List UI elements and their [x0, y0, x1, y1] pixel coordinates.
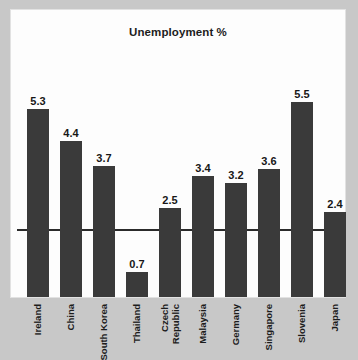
bar-value-label: 2.4	[317, 198, 353, 210]
bar-value-label: 5.5	[284, 88, 320, 100]
bar-value-label: 0.7	[119, 258, 155, 270]
bar-group: 5.5Slovenia	[291, 78, 313, 297]
x-axis-tick-label: Ireland	[33, 304, 44, 335]
x-axis-tick-label: Japan	[330, 304, 341, 331]
x-axis-tick-label: Malaysia	[198, 304, 209, 344]
x-axis-tick-label: CzechRepublic	[160, 304, 181, 344]
bar[interactable]	[159, 208, 181, 297]
x-axis-tick-label: China	[66, 304, 77, 330]
bar[interactable]	[225, 183, 247, 297]
x-axis-tick-label: Singapore	[264, 304, 275, 350]
bar-group: 4.4China	[60, 78, 82, 297]
bar-group: 0.7Thailand	[126, 78, 148, 297]
bar[interactable]	[126, 272, 148, 297]
x-axis-tick-label: Germany	[231, 304, 242, 345]
chart-title: Unemployment %	[11, 26, 345, 38]
bar-value-label: 3.2	[218, 169, 254, 181]
bar-group: 3.2Germany	[225, 78, 247, 297]
bar-value-label: 5.3	[20, 95, 56, 107]
x-axis-tick-label: Slovenia	[297, 304, 308, 343]
bar-chart-plot-area: Unemployment % 5.3Ireland4.4China3.7Sout…	[11, 10, 345, 297]
bar[interactable]	[27, 109, 49, 297]
x-axis-tick-label: Thailand	[132, 304, 143, 343]
bar[interactable]	[93, 166, 115, 297]
chart-card: Unemployment % 5.3Ireland4.4China3.7Sout…	[10, 9, 346, 298]
bar-value-label: 3.4	[185, 162, 221, 174]
bar-value-label: 3.6	[251, 155, 287, 167]
bar-group: 3.7South Korea	[93, 78, 115, 297]
bar[interactable]	[324, 212, 346, 297]
x-axis-tick-label: South Korea	[99, 304, 110, 360]
bar-group: 3.4Malaysia	[192, 78, 214, 297]
bar[interactable]	[60, 141, 82, 297]
bar-value-label: 4.4	[53, 127, 89, 139]
bar-group: 3.6Singapore	[258, 78, 280, 297]
bar-group: 2.4Japan	[324, 78, 346, 297]
bar-group: 5.3Ireland	[27, 78, 49, 297]
bar[interactable]	[291, 102, 313, 297]
bar-value-label: 3.7	[86, 152, 122, 164]
bar[interactable]	[192, 176, 214, 297]
bar-value-label: 2.5	[152, 194, 188, 206]
bar[interactable]	[258, 169, 280, 297]
bar-group: 2.5CzechRepublic	[159, 78, 181, 297]
